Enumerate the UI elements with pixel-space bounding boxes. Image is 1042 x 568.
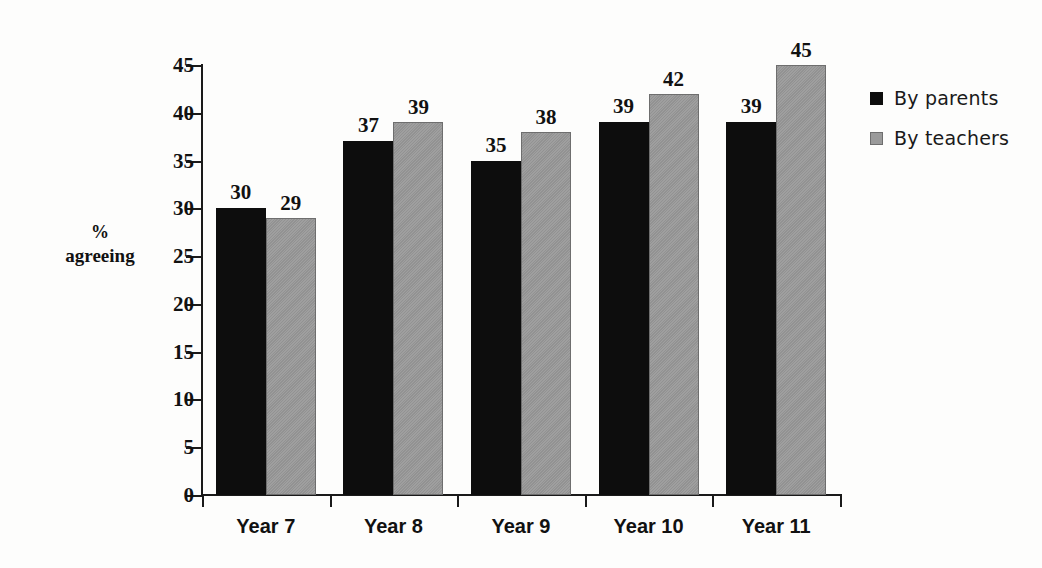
bar-value-label: 29 [280, 193, 301, 214]
y-axis-tick-label: 15 [173, 341, 194, 362]
x-axis-tick-mark [712, 494, 714, 507]
y-axis-tick-label: 40 [173, 102, 194, 123]
chart-legend: By parentsBy teachers [870, 78, 1009, 158]
y-axis-title-line-1: % [40, 222, 160, 244]
bar-value-label: 39 [408, 97, 429, 118]
bar[interactable]: 42 [649, 94, 699, 495]
x-axis-tick-mark [585, 494, 587, 507]
bar-group: 3029 [202, 65, 330, 495]
black-square-swatch [870, 92, 883, 105]
bar-group: 3942 [585, 65, 713, 495]
y-axis-tick-label: 5 [184, 437, 195, 458]
gray-square-swatch [870, 132, 883, 145]
y-axis-tick-label: 0 [184, 485, 195, 506]
bar-value-label: 39 [741, 96, 762, 117]
legend-item[interactable]: By parents [870, 78, 1009, 118]
y-axis-tick-label: 20 [173, 293, 194, 314]
bar-value-label: 38 [535, 107, 556, 128]
y-axis-title-line-2: agreeing [40, 244, 160, 267]
bar[interactable]: 30 [216, 208, 266, 495]
x-axis-category-label: Year 8 [330, 515, 458, 538]
y-axis-tick-label: 30 [173, 198, 194, 219]
bar[interactable]: 39 [393, 122, 443, 495]
chart-figure: % agreeing 05101520253035404530293739353… [0, 0, 1042, 568]
bar-value-label: 35 [485, 135, 506, 156]
y-axis-tick-label: 10 [173, 389, 194, 410]
y-axis-title: % agreeing [40, 222, 160, 267]
bar-group: 3739 [330, 65, 458, 495]
x-axis-start-cap [202, 494, 204, 507]
legend-item[interactable]: By teachers [870, 118, 1009, 158]
bar[interactable]: 38 [521, 132, 571, 495]
bar[interactable]: 45 [776, 65, 826, 495]
legend-item-label: By teachers [894, 127, 1009, 149]
bar-value-label: 39 [613, 96, 634, 117]
bar[interactable]: 39 [726, 122, 776, 495]
y-axis-tick-label: 25 [173, 246, 194, 267]
x-axis-tick-mark [330, 494, 332, 507]
bar-value-label: 42 [663, 69, 684, 90]
bar-group: 3538 [457, 65, 585, 495]
bar[interactable]: 35 [471, 161, 521, 495]
plot-area: 05101520253035404530293739353839423945 [202, 65, 840, 495]
bar-value-label: 37 [358, 115, 379, 136]
bar-value-label: 45 [791, 40, 812, 61]
y-axis-tick-label: 45 [173, 55, 194, 76]
x-axis-category-label: Year 10 [585, 515, 713, 538]
x-axis-category-label: Year 9 [457, 515, 585, 538]
x-axis-category-label: Year 7 [202, 515, 330, 538]
x-axis-category-label: Year 11 [712, 515, 840, 538]
bar[interactable]: 29 [266, 218, 316, 495]
y-axis-tick-label: 35 [173, 150, 194, 171]
x-axis-tick-mark [457, 494, 459, 507]
bar-group: 3945 [712, 65, 840, 495]
bar[interactable]: 37 [343, 141, 393, 495]
bar[interactable]: 39 [599, 122, 649, 495]
bar-value-label: 30 [230, 182, 251, 203]
legend-item-label: By parents [894, 87, 999, 109]
x-axis-end-cap [840, 494, 842, 507]
